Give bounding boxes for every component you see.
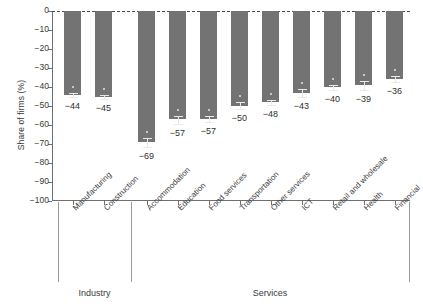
error-bar-cap-upper — [143, 138, 152, 139]
group-label: Services — [131, 288, 409, 298]
point-marker — [332, 78, 334, 80]
error-bar — [69, 93, 78, 99]
bar[interactable] — [200, 11, 217, 119]
bar-value-label: −39 — [350, 94, 377, 104]
bar[interactable] — [64, 11, 81, 95]
error-bar-cap-lower — [391, 82, 400, 83]
point-marker — [301, 82, 303, 84]
error-bar-cap-upper — [236, 102, 245, 103]
bar[interactable] — [169, 11, 186, 119]
bar-value-label: −45 — [90, 103, 117, 113]
error-bar-cap-upper — [100, 95, 109, 96]
error-bar-cap-lower — [360, 90, 369, 91]
error-bar-cap-lower — [329, 90, 338, 91]
bar[interactable] — [138, 11, 155, 142]
group-separator — [131, 202, 132, 282]
y-tick-label: −70 — [35, 138, 49, 148]
error-bar — [298, 89, 307, 99]
error-bar — [360, 81, 369, 91]
error-bar-cap-upper — [205, 116, 214, 117]
y-tick-label: −10 — [35, 24, 49, 34]
error-bar — [143, 138, 152, 148]
bar-value-label: −50 — [226, 113, 253, 123]
error-bar-cap-upper — [329, 85, 338, 86]
bar[interactable] — [231, 11, 248, 106]
error-bar — [267, 100, 276, 106]
bar-value-label: −43 — [288, 101, 315, 111]
group-separator — [58, 202, 59, 282]
error-bar-cap-upper — [391, 76, 400, 77]
point-marker — [239, 95, 241, 97]
bar-chart: Share of firms (%) 0−10−20−30−40−50−60−7… — [0, 0, 423, 307]
y-tick-label: −30 — [35, 62, 49, 72]
y-axis-title: Share of firms (%) — [16, 55, 26, 175]
error-bar-cap-upper — [174, 116, 183, 117]
error-bar — [174, 116, 183, 126]
error-bar-cap-lower — [267, 105, 276, 106]
bar-value-label: −57 — [164, 128, 191, 138]
error-bar-cap-upper — [360, 81, 369, 82]
error-bar — [205, 116, 214, 124]
error-bar-cap-upper — [267, 100, 276, 101]
bar-value-label: −44 — [59, 101, 86, 111]
y-tick-label: −20 — [35, 43, 49, 53]
y-tick-label: −50 — [35, 100, 49, 110]
bar-value-label: −36 — [381, 86, 408, 96]
bar-value-label: −57 — [195, 126, 222, 136]
point-marker — [177, 109, 179, 111]
group-separator — [409, 202, 410, 282]
error-bar-cap-lower — [143, 147, 152, 148]
bar[interactable] — [293, 11, 310, 93]
group-label: Industry — [58, 288, 131, 298]
point-marker — [72, 86, 74, 88]
error-bar-cap-lower — [69, 97, 78, 98]
bar[interactable] — [324, 11, 341, 87]
error-bar — [100, 95, 109, 101]
error-bar — [329, 85, 338, 91]
error-bar-cap-upper — [69, 93, 78, 94]
bar-value-label: −40 — [319, 94, 346, 104]
bar-value-label: −48 — [257, 109, 284, 119]
error-bar-cap-upper — [298, 89, 307, 90]
error-bar-cap-lower — [236, 109, 245, 110]
y-axis-line — [52, 11, 53, 201]
y-tick-label: −90 — [35, 176, 49, 186]
error-bar — [236, 102, 245, 110]
error-bar-cap-lower — [100, 99, 109, 100]
error-bar-cap-lower — [174, 124, 183, 125]
point-marker — [208, 109, 210, 111]
error-bar-cap-lower — [298, 97, 307, 98]
error-bar-cap-lower — [205, 122, 214, 123]
y-tick-label: −40 — [35, 81, 49, 91]
bar-value-label: −69 — [133, 151, 160, 161]
point-marker — [103, 88, 105, 90]
y-tick-label: −100 — [30, 195, 49, 205]
y-tick-label: 0 — [44, 5, 49, 15]
point-marker — [394, 69, 396, 71]
error-bar — [391, 76, 400, 84]
bar[interactable] — [95, 11, 112, 97]
y-tick-label: −60 — [35, 119, 49, 129]
y-tick-label: −80 — [35, 157, 49, 167]
bar[interactable] — [262, 11, 279, 102]
